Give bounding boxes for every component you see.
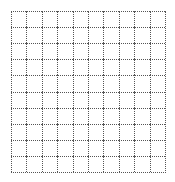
grid-cell-r3-c6 [88,43,103,59]
grid-cell-r9-c10 [150,140,165,156]
grid-cell-r6-c5 [73,92,88,108]
grid-cell-r7-c7 [103,108,118,124]
grid-cell-r10-c9 [134,156,149,172]
grid-cell-r3-c5 [73,43,88,59]
grid-cell-r10-c3 [42,156,57,172]
grid-cell-r9-c2 [26,140,41,156]
grid-cell-r3-c9 [134,43,149,59]
grid-cell-r9-c9 [134,140,149,156]
grid-cell-r2-c3 [42,27,57,43]
grid-cell-r1-c1 [11,11,26,27]
grid-cell-r10-c7 [103,156,118,172]
grid-cell-r5-c6 [88,75,103,91]
grid-cell-r2-c5 [73,27,88,43]
dotted-grid [11,11,166,173]
grid-cell-r3-c4 [57,43,72,59]
grid-cell-r4-c3 [42,59,57,75]
grid-cell-r6-c10 [150,92,165,108]
grid-cell-r10-c8 [119,156,134,172]
grid-cell-r4-c7 [103,59,118,75]
grid-cell-r6-c2 [26,92,41,108]
canvas [0,0,175,182]
grid-cell-r9-c4 [57,140,72,156]
grid-cell-r7-c1 [11,108,26,124]
grid-cell-r10-c10 [150,156,165,172]
grid-cell-r7-c10 [150,108,165,124]
grid-cell-r4-c5 [73,59,88,75]
grid-cell-r4-c6 [88,59,103,75]
grid-cell-r9-c1 [11,140,26,156]
grid-cell-r1-c7 [103,11,118,27]
grid-cell-r5-c7 [103,75,118,91]
grid-cell-r9-c6 [88,140,103,156]
grid-cell-r4-c8 [119,59,134,75]
grid-cell-r7-c2 [26,108,41,124]
grid-cell-r7-c6 [88,108,103,124]
grid-cell-r7-c3 [42,108,57,124]
grid-cell-r10-c2 [26,156,41,172]
grid-cell-r8-c10 [150,124,165,140]
grid-cell-r3-c8 [119,43,134,59]
grid-cell-r10-c6 [88,156,103,172]
grid-cell-r2-c6 [88,27,103,43]
grid-cell-r2-c9 [134,27,149,43]
grid-cell-r10-c5 [73,156,88,172]
grid-cell-r5-c3 [42,75,57,91]
grid-cell-r6-c6 [88,92,103,108]
grid-cell-r5-c2 [26,75,41,91]
grid-cell-r1-c9 [134,11,149,27]
grid-cell-r9-c5 [73,140,88,156]
grid-cell-r1-c2 [26,11,41,27]
grid-cell-r1-c4 [57,11,72,27]
grid-cell-r8-c7 [103,124,118,140]
grid-cell-r2-c1 [11,27,26,43]
grid-cell-r6-c3 [42,92,57,108]
grid-cell-r8-c8 [119,124,134,140]
grid-cell-r7-c9 [134,108,149,124]
grid-cell-r9-c8 [119,140,134,156]
grid-cell-r2-c8 [119,27,134,43]
grid-cell-r9-c7 [103,140,118,156]
grid-cell-r8-c1 [11,124,26,140]
grid-cell-r2-c4 [57,27,72,43]
grid-cell-r3-c1 [11,43,26,59]
grid-cell-r6-c9 [134,92,149,108]
grid-cell-r8-c4 [57,124,72,140]
grid-cell-r8-c6 [88,124,103,140]
grid-cell-r7-c4 [57,108,72,124]
grid-cell-r9-c3 [42,140,57,156]
grid-cell-r10-c1 [11,156,26,172]
grid-cell-r3-c10 [150,43,165,59]
grid-cell-r8-c3 [42,124,57,140]
grid-cell-r1-c10 [150,11,165,27]
grid-cell-r8-c5 [73,124,88,140]
grid-cell-r3-c2 [26,43,41,59]
grid-cell-r4-c9 [134,59,149,75]
grid-cell-r5-c10 [150,75,165,91]
grid-cell-r1-c5 [73,11,88,27]
grid-cell-r3-c3 [42,43,57,59]
grid-cell-r2-c7 [103,27,118,43]
grid-cell-r4-c4 [57,59,72,75]
grid-cell-r1-c8 [119,11,134,27]
grid-cell-r2-c10 [150,27,165,43]
grid-cell-r5-c9 [134,75,149,91]
grid-cell-r5-c5 [73,75,88,91]
grid-cell-r6-c8 [119,92,134,108]
grid-cell-r3-c7 [103,43,118,59]
grid-cell-r4-c1 [11,59,26,75]
grid-cell-r7-c5 [73,108,88,124]
grid-cell-r7-c8 [119,108,134,124]
grid-cell-r6-c1 [11,92,26,108]
grid-cell-r1-c3 [42,11,57,27]
grid-cell-r6-c7 [103,92,118,108]
grid-cell-r2-c2 [26,27,41,43]
grid-cell-r4-c2 [26,59,41,75]
grid-cell-r4-c10 [150,59,165,75]
grid-cell-r1-c6 [88,11,103,27]
grid-cell-r5-c4 [57,75,72,91]
grid-cell-r5-c8 [119,75,134,91]
grid-cell-r8-c9 [134,124,149,140]
grid-cell-r8-c2 [26,124,41,140]
grid-cell-r6-c4 [57,92,72,108]
